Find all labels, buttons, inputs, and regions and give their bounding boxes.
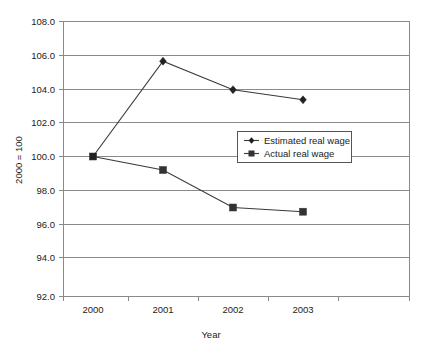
data-point-estimated-2000 bbox=[90, 154, 96, 160]
legend-label-estimated: Estimated real wage bbox=[264, 135, 350, 146]
data-point-actual-2001 bbox=[160, 167, 167, 174]
y-tick-label-92: 92.0 bbox=[37, 291, 56, 302]
square-marker-icon bbox=[249, 151, 255, 157]
x-tick-label-2002: 2002 bbox=[222, 304, 243, 315]
x-tick-label-2001: 2001 bbox=[152, 304, 173, 315]
x-tick-label-2000: 2000 bbox=[82, 304, 103, 315]
y-axis-title: 2000 = 100 bbox=[13, 136, 24, 184]
y-tick-label-106: 106.0 bbox=[31, 50, 55, 61]
y-tick-labels: 108.0 106.0 104.0 102.0 100.0 98.0 96.0 … bbox=[31, 16, 55, 302]
line-chart: 108.0 106.0 104.0 102.0 100.0 98.0 96.0 … bbox=[0, 0, 422, 351]
chart-canvas: 108.0 106.0 104.0 102.0 100.0 98.0 96.0 … bbox=[0, 0, 422, 351]
data-point-actual-2002 bbox=[230, 204, 237, 211]
x-axis-title: Year bbox=[201, 329, 220, 340]
y-tick-label-100: 100.0 bbox=[31, 151, 55, 162]
plot-area-background bbox=[63, 21, 410, 297]
x-tick-marks bbox=[64, 297, 410, 301]
y-tick-label-98: 98.0 bbox=[37, 185, 56, 196]
legend-label-actual: Actual real wage bbox=[264, 148, 334, 159]
y-tick-label-102: 102.0 bbox=[31, 117, 55, 128]
y-tick-marks bbox=[59, 22, 63, 297]
y-tick-label-96: 96.0 bbox=[37, 219, 56, 230]
legend[interactable]: Estimated real wage Actual real wage bbox=[238, 132, 352, 163]
y-tick-label-108: 108.0 bbox=[31, 16, 55, 27]
x-tick-labels: 2000 2001 2002 2003 bbox=[82, 304, 313, 315]
y-tick-label-94: 94.0 bbox=[37, 252, 56, 263]
data-point-actual-2003 bbox=[300, 208, 307, 215]
y-tick-label-104: 104.0 bbox=[31, 84, 55, 95]
x-tick-label-2003: 2003 bbox=[292, 304, 313, 315]
